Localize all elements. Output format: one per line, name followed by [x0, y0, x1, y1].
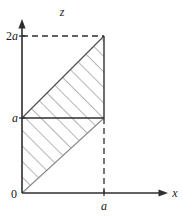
z-tick-label-a: a	[12, 111, 18, 125]
coordinate-diagram: 2a a a 0 z x	[0, 0, 183, 216]
x-tick-label-a: a	[101, 199, 107, 213]
origin-label: 0	[11, 187, 17, 201]
z-axis-arrowhead-icon	[18, 19, 25, 29]
figure-container: 2a a a 0 z x	[0, 0, 183, 216]
z-axis-label: z	[59, 5, 65, 19]
x-axis-label: x	[171, 186, 178, 200]
z-tick-label-2a-symbol: a	[12, 29, 18, 43]
z-tick-label-2a: 2a	[6, 29, 18, 43]
x-axis-arrowhead-icon	[159, 189, 169, 196]
